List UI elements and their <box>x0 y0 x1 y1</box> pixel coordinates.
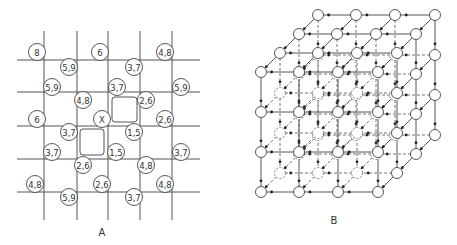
node-label: X <box>99 115 105 125</box>
edge-arrowhead <box>434 122 437 125</box>
edge-arrowhead <box>420 107 423 110</box>
lattice-node <box>333 147 344 158</box>
lattice-node <box>411 149 422 160</box>
edge-arrowhead <box>303 145 306 148</box>
node-label: 5,9 <box>62 193 76 203</box>
edge-arrowhead <box>317 42 320 45</box>
edge-arrowhead <box>289 132 292 135</box>
node-label: 6 <box>97 48 102 58</box>
node-label: 3,7 <box>127 63 141 73</box>
edge-arrowhead <box>348 71 351 74</box>
edge-arrowhead <box>367 132 370 135</box>
grid-node: 5,9 <box>61 59 78 76</box>
hidden-lattice-node <box>275 88 286 99</box>
edge-arrowhead <box>405 14 408 17</box>
lattice-node <box>411 69 422 80</box>
edge-arrowhead <box>317 120 320 123</box>
lattice-node <box>390 10 401 21</box>
lattice-node <box>256 187 267 198</box>
node-label: 2,6 <box>158 115 172 125</box>
edge-arrowhead <box>337 139 340 142</box>
edge-arrowhead <box>342 65 345 68</box>
edge-arrowhead <box>415 61 418 64</box>
grid-node: 2,6 <box>94 176 111 193</box>
node-label: 1,5 <box>109 148 123 158</box>
grid-node: 3,7 <box>109 79 126 96</box>
edge-arrowhead <box>415 141 418 144</box>
edge-arrowhead <box>405 54 408 57</box>
edge-arrowhead <box>361 46 364 49</box>
node-label: 5,9 <box>62 63 76 73</box>
edge-arrowhead <box>309 111 312 114</box>
hidden-lattice-node <box>352 128 363 139</box>
node-label: 2,6 <box>76 161 90 171</box>
edge-arrowhead <box>386 113 389 116</box>
edge-arrowhead <box>380 27 383 30</box>
edge-arrowhead <box>382 145 385 148</box>
grid-node: 2,6 <box>157 111 174 128</box>
lattice-node <box>371 29 382 40</box>
edge-arrowhead <box>355 42 358 45</box>
edge-arrowhead <box>303 185 306 188</box>
edge-arrowhead <box>342 145 345 148</box>
edge-arrowhead <box>366 14 369 17</box>
lattice-node <box>333 107 344 118</box>
edge-arrowhead <box>342 185 345 188</box>
lattice-node <box>256 107 267 118</box>
edge-arrowhead <box>347 33 350 36</box>
edge-arrowhead <box>298 99 301 102</box>
grid-node: 4,8 <box>75 92 92 109</box>
edge-arrowhead <box>270 191 273 194</box>
edge-arrowhead <box>284 166 287 169</box>
edge-arrowhead <box>328 132 331 135</box>
edge-arrowhead <box>434 82 437 85</box>
edge-arrowhead <box>394 122 397 125</box>
grid-node: 4,8 <box>138 157 155 174</box>
lattice-node <box>430 10 441 21</box>
edge-arrowhead <box>309 191 312 194</box>
edge-arrowhead <box>401 166 404 169</box>
edge-arrowhead <box>337 99 340 102</box>
edge-arrowhead <box>367 52 370 55</box>
lattice-node <box>373 107 384 118</box>
hidden-lattice-node <box>313 128 324 139</box>
lattice-node <box>430 50 441 61</box>
edge-arrowhead <box>405 134 408 137</box>
hidden-lattice-node <box>313 88 324 99</box>
edge-arrowhead <box>322 166 325 169</box>
edge-arrowhead <box>322 126 325 129</box>
grid-node: 5,9 <box>61 189 78 206</box>
edge-arrowhead <box>317 160 320 163</box>
lattice-node <box>294 107 305 118</box>
diagram-canvas: 864,85,93,75,93,75,94,82,66X2,63,71,53,7… <box>0 0 457 245</box>
edge-arrowhead <box>348 151 351 154</box>
edge-arrowhead <box>328 92 331 95</box>
edge-arrowhead <box>367 172 370 175</box>
grid-node: 4,8 <box>157 44 174 61</box>
edge-arrowhead <box>322 46 325 49</box>
edge-arrowhead <box>265 105 268 108</box>
edge-arrowhead <box>298 139 301 142</box>
node-label: 4,8 <box>28 180 42 190</box>
edge-arrowhead <box>337 179 340 182</box>
edge-arrowhead <box>375 141 378 144</box>
grid-node: 5,9 <box>44 79 61 96</box>
edge-arrowhead <box>420 27 423 30</box>
lattice-node <box>392 88 403 99</box>
edge-arrowhead <box>386 73 389 76</box>
edge-arrowhead <box>265 65 268 68</box>
hidden-lattice-node <box>352 88 363 99</box>
node-label: 1,5 <box>127 128 141 138</box>
grid-node: 4,8 <box>27 176 44 193</box>
grid-node: 8 <box>29 44 46 61</box>
edge-arrowhead <box>279 160 282 163</box>
node-label: 4,8 <box>76 96 90 106</box>
edge-arrowhead <box>265 185 268 188</box>
edge-arrowhead <box>309 151 312 154</box>
lattice-node <box>294 187 305 198</box>
grid-node: 3,7 <box>44 144 61 161</box>
grid-node: 1,5 <box>108 144 125 161</box>
grid-node: 6 <box>92 44 109 61</box>
grid-node: 3,7 <box>126 59 143 76</box>
lattice-node <box>313 48 324 59</box>
